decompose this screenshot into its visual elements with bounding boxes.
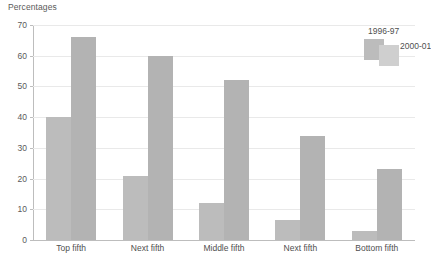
bar (71, 37, 96, 240)
legend-swatch-2000-01 (379, 45, 399, 66)
bar (352, 231, 377, 240)
legend-label: 2000-01 (400, 41, 431, 51)
bar (300, 136, 325, 240)
y-axis-tick-label: 70 (18, 20, 27, 30)
y-axis-tick-label: 60 (18, 51, 27, 61)
y-axis-tick-label: 0 (22, 235, 27, 245)
bar-group (123, 25, 173, 240)
bar (148, 56, 173, 240)
bar-group (46, 25, 96, 240)
y-axis-tick-label: 10 (18, 204, 27, 214)
bar (377, 169, 402, 240)
bar (123, 176, 148, 241)
y-axis-tick-label: 50 (18, 81, 27, 91)
x-axis-tick-label: Next fifth (262, 243, 338, 253)
y-axis-tick-label: 20 (18, 174, 27, 184)
y-axis-tick-label: 30 (18, 143, 27, 153)
x-axis-tick-label: Top fifth (33, 243, 109, 253)
chart-legend: 1996-97 2000-01 (330, 26, 418, 66)
bar-group (199, 25, 249, 240)
gridline (33, 240, 415, 241)
x-axis-tick-label: Bottom fifth (339, 243, 415, 253)
x-axis-tick-label: Next fifth (109, 243, 185, 253)
y-axis-tick-labels: 010203040506070 (0, 0, 33, 268)
x-axis-tick-labels: Top fifthNext fifthMiddle fifthNext fift… (33, 243, 415, 263)
bar-group (275, 25, 325, 240)
bar (199, 203, 224, 240)
bar (224, 80, 249, 240)
x-axis-tick-label: Middle fifth (186, 243, 262, 253)
bar (46, 117, 71, 240)
legend-label: 1996-97 (368, 26, 399, 36)
bar (275, 220, 300, 240)
y-axis-tick-label: 40 (18, 112, 27, 122)
